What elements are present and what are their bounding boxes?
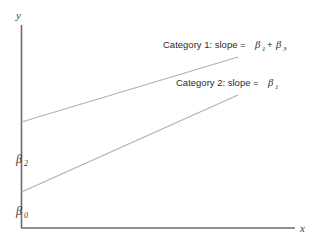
regression-plot: y x β 2 β 0 Category 1: slope = β 1 + β … — [0, 0, 316, 246]
category-1-beta3-base: β — [275, 39, 282, 50]
category-2-beta1-base: β — [267, 77, 274, 88]
x-axis-label: x — [299, 222, 305, 234]
y-tick-beta-0-base: β — [15, 204, 22, 218]
category-1-beta1-subscript: 1 — [262, 45, 266, 53]
category-1-annotation-text: Category 1: slope = — [163, 39, 246, 50]
y-tick-beta-2-subscript: 2 — [24, 159, 28, 168]
figure-canvas: y x β 2 β 0 Category 1: slope = β 1 + β … — [0, 0, 316, 246]
category-1-beta1-base: β — [254, 39, 261, 50]
category-2-beta1-subscript: 1 — [275, 83, 279, 91]
category-1-beta3-subscript: 3 — [282, 45, 287, 53]
category-2-annotation-text: Category 2: slope = — [176, 77, 259, 88]
plot-background — [0, 0, 316, 246]
category-1-plus-sign: + — [267, 39, 273, 50]
y-axis-label: y — [15, 9, 21, 21]
y-tick-beta-0-subscript: 0 — [24, 211, 28, 220]
y-tick-beta-2-base: β — [15, 152, 22, 166]
